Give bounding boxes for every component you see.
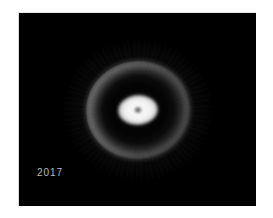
central-core-layer — [117, 93, 159, 126]
figure-page: 2017 — [0, 0, 273, 218]
dark-gap-layer — [108, 82, 168, 138]
outer-ring-layer — [79, 54, 196, 166]
inner-pinhole-layer — [134, 106, 142, 113]
year-annotation: 2017 — [37, 168, 63, 178]
diffuse-halo-layer — [68, 44, 208, 176]
radial-noise-texture-layer — [63, 39, 213, 181]
outer-ring-bright-limb-layer — [79, 54, 196, 166]
astronomical-image-panel: 2017 — [18, 12, 256, 206]
